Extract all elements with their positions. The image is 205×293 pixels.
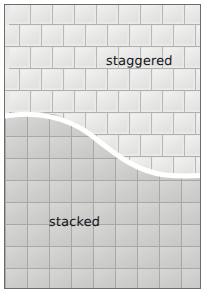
staggered-tile (97, 5, 119, 25)
staggered-tile (75, 5, 97, 25)
staggered-tile-row (5, 69, 200, 91)
staggered-tile (152, 69, 174, 91)
staggered-tile (185, 47, 200, 69)
staggered-tile (53, 5, 75, 25)
staggered-tile (42, 69, 64, 91)
staggered-tile (119, 135, 141, 157)
staggered-tile (196, 69, 200, 91)
staggered-tile-row (5, 91, 200, 113)
staggered-tile (5, 25, 20, 47)
staggered-tile (163, 5, 185, 25)
label-staggered: staggered (106, 53, 173, 68)
staggered-tile-row (5, 5, 200, 25)
staggered-tile (86, 25, 108, 47)
staggered-tile (75, 91, 97, 113)
staggered-tile (20, 25, 42, 47)
staggered-tile (196, 113, 200, 135)
staggered-tile (185, 135, 200, 157)
staggered-tile (5, 69, 20, 91)
tile-layout-diagram: staggered stacked (0, 0, 205, 293)
staggered-tile (174, 25, 196, 47)
staggered-tile (64, 69, 86, 91)
staggered-tile (53, 47, 75, 69)
staggered-tile (97, 91, 119, 113)
staggered-tile (163, 135, 185, 157)
label-stacked: stacked (49, 214, 101, 229)
staggered-tile (163, 91, 185, 113)
staggered-tile (130, 113, 152, 135)
staggered-tile (119, 5, 141, 25)
staggered-tile-row (5, 25, 200, 47)
staggered-tile (119, 91, 141, 113)
staggered-tile (141, 91, 163, 113)
staggered-tile (9, 91, 31, 113)
staggered-tile (174, 69, 196, 91)
staggered-tile (152, 25, 174, 47)
staggered-tile (64, 25, 86, 47)
staggered-tile (130, 25, 152, 47)
staggered-tile (185, 5, 200, 25)
staggered-tile (108, 25, 130, 47)
staggered-tile (174, 113, 196, 135)
staggered-tile (108, 113, 130, 135)
staggered-tile (53, 91, 75, 113)
staggered-tile (20, 69, 42, 91)
staggered-tile (86, 69, 108, 91)
staggered-tile (185, 91, 200, 113)
staggered-tile (42, 25, 64, 47)
diagram-frame: staggered stacked (4, 4, 201, 289)
staggered-tile (152, 113, 174, 135)
staggered-tile (31, 5, 53, 25)
staggered-tile (86, 113, 108, 135)
staggered-tile (108, 69, 130, 91)
diagram-canvas: staggered stacked (5, 5, 200, 288)
staggered-tile (141, 5, 163, 25)
staggered-tile (75, 47, 97, 69)
staggered-tile (141, 135, 163, 157)
staggered-tile (130, 69, 152, 91)
staggered-tile (9, 5, 31, 25)
staggered-tile (9, 47, 31, 69)
staggered-tile (31, 47, 53, 69)
staggered-tile (31, 91, 53, 113)
staggered-tile (196, 25, 200, 47)
